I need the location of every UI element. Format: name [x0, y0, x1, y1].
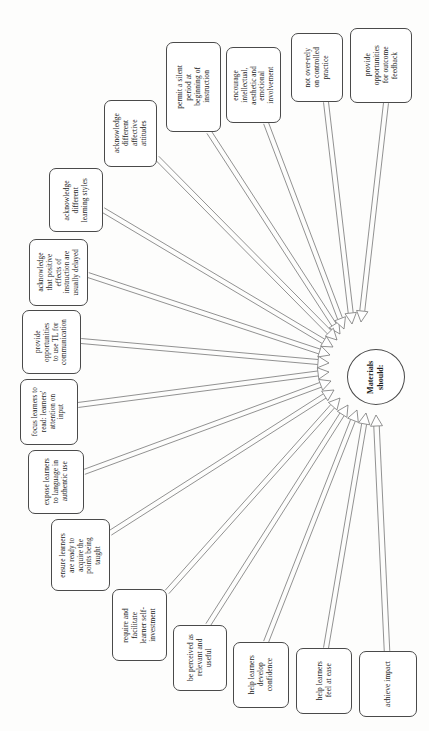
- node-ensure-readiness-label: ensure learners are ready to acquire the…: [58, 531, 104, 580]
- node-be-perceived-relevant[interactable]: be perceived as relevant and useful: [173, 625, 227, 691]
- node-provide-outcome-feedback-label: provide opportunities for outcome feedba…: [362, 43, 400, 87]
- node-require-self-investment[interactable]: require and facilitate learner self- inv…: [112, 589, 167, 661]
- node-encourage-involvement[interactable]: encourage intellectual, aesthetic and em…: [226, 47, 281, 123]
- node-permit-silent-period-label: permit a silent period at beginning of i…: [174, 63, 212, 111]
- node-expose-authentic-language[interactable]: expose learners to language in authentic…: [28, 450, 84, 514]
- node-provide-tl-communication-label: provide opportunities to use TL for comm…: [33, 317, 70, 367]
- node-achieve-impact[interactable]: achieve impact: [359, 651, 417, 717]
- node-ensure-readiness[interactable]: ensure learners are ready to acquire the…: [51, 519, 110, 591]
- node-acknowledge-learning-styles[interactable]: acknowledge different learning styles: [49, 168, 103, 232]
- node-acknowledge-affective-attitudes[interactable]: acknowledge different affective attitude…: [104, 100, 157, 167]
- edge-be-perceived-relevant: [206, 405, 348, 626]
- node-provide-tl-communication[interactable]: provide opportunities to use TL for comm…: [22, 310, 81, 374]
- hub-label: Materials should:: [366, 361, 386, 394]
- node-not-over-rely-controlled-practice[interactable]: not over-rely on controlled practice: [291, 33, 343, 102]
- edge-not-over-rely-controlled-practice: [324, 102, 357, 324]
- edge-acknowledge-learning-styles: [102, 208, 333, 347]
- node-acknowledge-delayed-effects-label: acknowledge that positive effects of ins…: [36, 247, 82, 297]
- node-acknowledge-affective-attitudes-label: acknowledge different affective attitude…: [111, 111, 149, 155]
- node-permit-silent-period[interactable]: permit a silent period at beginning of i…: [166, 42, 221, 132]
- hub-materials-should: Materials should:: [347, 349, 405, 405]
- edge-focus-attention-on-input: [78, 368, 329, 408]
- edge-ensure-readiness: [109, 390, 334, 535]
- node-acknowledge-learning-styles-label: acknowledge different learning styles: [61, 176, 90, 224]
- edge-help-feel-at-ease: [324, 413, 370, 648]
- node-help-develop-confidence-label: help learners develop confidence: [246, 653, 275, 696]
- edge-encourage-involvement: [264, 122, 346, 329]
- node-not-over-rely-controlled-practice-label: not over-rely on controlled practice: [302, 45, 331, 90]
- node-acknowledge-delayed-effects[interactable]: acknowledge that positive effects of ins…: [29, 239, 88, 306]
- edge-acknowledge-affective-attitudes: [155, 156, 337, 340]
- node-focus-attention-on-input[interactable]: focus learners to read: learners' attent…: [20, 379, 78, 445]
- node-focus-attention-on-input-label: focus learners to read: learners' attent…: [30, 385, 67, 438]
- node-help-develop-confidence[interactable]: help learners develop confidence: [233, 642, 289, 708]
- edge-achieve-impact: [371, 415, 390, 651]
- node-help-feel-at-ease[interactable]: help learners feel at ease: [296, 648, 352, 714]
- node-achieve-impact-label: achieve impact: [382, 659, 393, 709]
- edge-provide-tl-communication: [81, 339, 329, 368]
- node-encourage-involvement-label: encourage intellectual, aesthetic and em…: [231, 64, 277, 107]
- edge-permit-silent-period: [207, 131, 340, 334]
- edge-require-self-investment: [165, 398, 340, 594]
- edge-expose-authentic-language: [83, 379, 331, 474]
- node-require-self-investment-label: require and facilitate learner self- inv…: [120, 605, 158, 646]
- node-provide-outcome-feedback[interactable]: provide opportunities for outcome feedba…: [350, 28, 412, 103]
- edge-acknowledge-delayed-effects: [87, 273, 330, 357]
- diagram-canvas: permit a silent period at beginning of i…: [0, 0, 429, 731]
- node-be-perceived-relevant-label: be perceived as relevant and useful: [185, 632, 214, 683]
- node-help-feel-at-ease-label: help learners feel at ease: [314, 659, 334, 702]
- edge-help-develop-confidence: [264, 410, 359, 643]
- node-expose-authentic-language-label: expose learners to language in authentic…: [41, 456, 70, 507]
- edge-provide-outcome-feedback: [357, 103, 389, 322]
